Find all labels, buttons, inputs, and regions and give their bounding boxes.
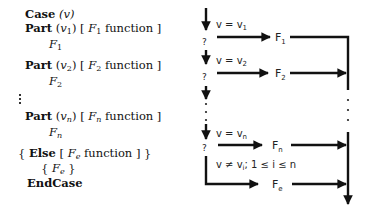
- condition-label-2: v = v2: [216, 55, 247, 68]
- output-line-1: [290, 37, 348, 90]
- decision-mark-2: ?: [202, 72, 207, 82]
- decision-mark-1: ?: [202, 37, 207, 47]
- condition-label-1: v = v1: [216, 19, 247, 32]
- else-function-label: Fe: [272, 178, 283, 193]
- function-label-1: F1: [275, 31, 286, 46]
- condition-label-n: v = vn: [216, 128, 247, 141]
- case-flowchart: v = v1 ? F1 v = v2 ? F2 v = vn ? Fn v ≠ …: [0, 0, 368, 210]
- function-label-2: F2: [275, 67, 286, 82]
- else-condition-label: v ≠ vi; 1 ≤ i ≤ n: [216, 159, 296, 172]
- continuation-dots: [205, 99, 349, 121]
- function-label-n: Fn: [272, 139, 283, 154]
- decision-mark-n: ?: [202, 143, 207, 153]
